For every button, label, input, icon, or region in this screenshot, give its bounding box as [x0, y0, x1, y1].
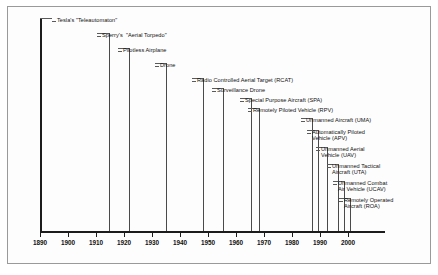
event-leader-horizontal [307, 133, 311, 134]
event-leader-horizontal [339, 201, 343, 202]
event-label: Drone [160, 62, 176, 68]
event-leader-horizontal [155, 66, 159, 67]
event-label: Radio Controlled Aerial Target (RCAT) [197, 77, 293, 83]
event-leader-horizontal [52, 21, 56, 22]
event-line [109, 33, 110, 231]
axis-tick [40, 233, 41, 237]
event-line [166, 63, 167, 231]
event-label: Unmanned Tactical Aircraft (UTA) [332, 163, 380, 176]
axis-tick-label: 1970 [250, 239, 278, 246]
event-line [318, 130, 319, 231]
event-leader-horizontal [327, 167, 331, 168]
event-label: Unmanned Combat Air Vehicle (UCAV) [338, 180, 387, 193]
event-line [251, 98, 252, 231]
timeline-plot-area: Tesla's "Teleautomaton"Sperry's "Aerial … [0, 0, 438, 275]
axis-tick [348, 233, 349, 237]
axis-tick [152, 233, 153, 237]
event-line [223, 88, 224, 231]
event-leader-horizontal [240, 101, 244, 102]
timeline-figure: Tesla's "Teleautomaton"Sperry's "Aerial … [0, 0, 438, 275]
axis-tick-label: 1890 [26, 239, 54, 246]
event-label: Sperry's "Aerial Torpedo" [102, 32, 167, 38]
axis-tick [264, 233, 265, 237]
event-line [129, 48, 130, 231]
event-leader-join [40, 18, 52, 19]
axis-tick-label: 1950 [194, 239, 222, 246]
axis-tick-label: 1900 [54, 239, 82, 246]
axis-tick [236, 233, 237, 237]
event-label: Special Purpose Aircraft (SPA) [245, 97, 322, 103]
event-label: Unmanned Aerial Vehicle (UAV) [321, 146, 365, 159]
axis-tick [68, 233, 69, 237]
axis-tick-label: 1940 [166, 239, 194, 246]
event-leader-horizontal [118, 51, 122, 52]
event-label: Surveillance Drone [217, 87, 265, 93]
event-leader-horizontal [333, 184, 337, 185]
event-line [40, 18, 42, 231]
axis-tick [320, 233, 321, 237]
event-line [259, 108, 260, 231]
axis-tick-label: 1920 [110, 239, 138, 246]
event-line [327, 147, 328, 231]
axis-tick-label: 1980 [278, 239, 306, 246]
event-label: Remotely Piloted Vehicle (RPV) [253, 107, 333, 113]
axis-tick-label: 2000 [334, 239, 362, 246]
axis-tick [180, 233, 181, 237]
axis-tick [208, 233, 209, 237]
event-leader-horizontal [248, 111, 252, 112]
axis-tick [96, 233, 97, 237]
event-line [203, 78, 204, 231]
axis-tick [124, 233, 125, 237]
event-label: Automatically Piloted Vehicle (APV) [312, 129, 365, 142]
time-axis [40, 231, 385, 233]
axis-tick-label: 1960 [222, 239, 250, 246]
axis-tick-label: 1990 [306, 239, 334, 246]
event-label: Tesla's "Teleautomaton" [57, 17, 117, 23]
axis-tick-label: 1910 [82, 239, 110, 246]
event-label: Remotely Operated Aircraft (ROA) [344, 197, 393, 210]
axis-tick-label: 1930 [138, 239, 166, 246]
event-leader-horizontal [301, 121, 305, 122]
event-label: Pilotless Airplane [123, 47, 167, 53]
event-leader-horizontal [212, 91, 216, 92]
event-leader-horizontal [192, 81, 196, 82]
event-leader-horizontal [97, 36, 101, 37]
event-label: Unmanned Aircraft (UMA) [306, 117, 371, 123]
axis-tick [292, 233, 293, 237]
event-leader-horizontal [316, 150, 320, 151]
